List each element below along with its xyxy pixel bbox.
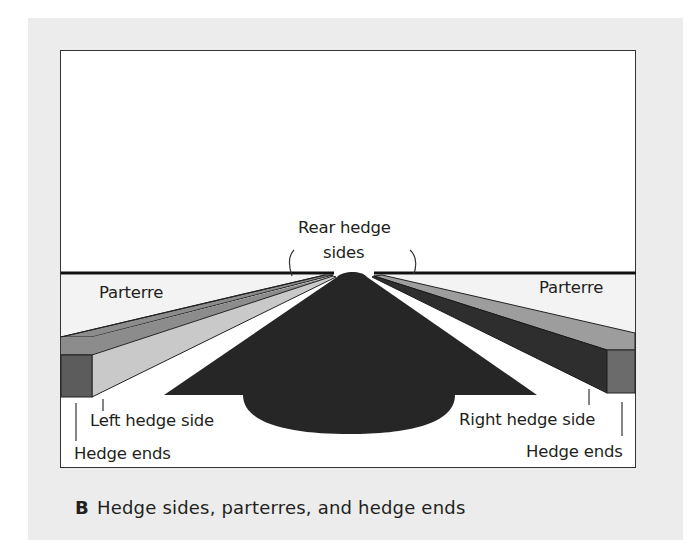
rear-hedge-bracket-right: [410, 250, 416, 274]
label-rear-hedge: Rear hedge: [298, 220, 391, 237]
garden-perspective-illustration: [0, 0, 688, 554]
label-left-hedge-side: Left hedge side: [90, 413, 214, 430]
label-rear-hedge-sides: sides: [323, 245, 364, 262]
right-hedge-end-face: [607, 350, 635, 393]
label-hedge-ends-right: Hedge ends: [526, 444, 623, 461]
label-hedge-ends-left: Hedge ends: [74, 446, 171, 463]
label-parterre-left: Parterre: [99, 285, 163, 302]
left-hedge-end-face: [61, 355, 92, 397]
caption-letter: B: [75, 497, 89, 518]
label-parterre-right: Parterre: [539, 280, 603, 297]
label-right-hedge-side: Right hedge side: [459, 412, 595, 429]
figure-caption: BHedge sides, parterres, and hedge ends: [75, 497, 465, 518]
caption-text: Hedge sides, parterres, and hedge ends: [97, 497, 466, 518]
